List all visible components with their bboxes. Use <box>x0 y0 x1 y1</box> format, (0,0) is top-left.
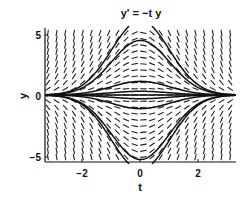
x-tick-label-neg2: −2 <box>76 168 88 179</box>
chart-title: y' = −t y <box>121 7 162 19</box>
y-tick-label-0: 0 <box>35 91 41 102</box>
x-tick-label-0: 0 <box>137 168 143 179</box>
solution-curve <box>45 95 236 164</box>
solution-curve <box>45 26 236 95</box>
y-axis-label: y <box>17 92 29 99</box>
y-tick-label-neg5: −5 <box>30 152 42 163</box>
slope-field-chart: y' = −t y 5 0 −5 −2 0 2 t y <box>0 0 249 197</box>
solution-curve <box>45 40 236 94</box>
y-tick-label-5: 5 <box>35 30 41 41</box>
x-axis-label: t <box>138 181 142 193</box>
x-tick-label-2: 2 <box>195 168 201 179</box>
